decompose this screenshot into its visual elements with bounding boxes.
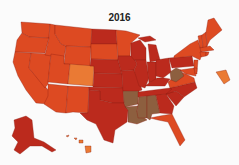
- state-ks: [93, 73, 123, 88]
- state-ms: [137, 96, 147, 118]
- state-oh: [156, 58, 171, 78]
- state-me: [206, 18, 222, 46]
- state-dc: [216, 70, 230, 84]
- state-wi: [131, 40, 146, 60]
- state-pa: [169, 56, 194, 68]
- state-ne: [90, 59, 122, 74]
- state-nd: [91, 29, 117, 44]
- state-az: [44, 84, 68, 113]
- state-ri: [206, 52, 209, 56]
- state-ct: [200, 52, 206, 57]
- us-choropleth-map: [0, 0, 239, 165]
- state-ak: [12, 116, 56, 154]
- state-hi: [66, 135, 91, 153]
- state-nm: [66, 86, 89, 113]
- state-wy: [64, 46, 91, 66]
- state-fl: [150, 114, 185, 146]
- state-ar: [123, 91, 139, 107]
- state-co: [68, 64, 94, 86]
- state-sd: [91, 44, 118, 60]
